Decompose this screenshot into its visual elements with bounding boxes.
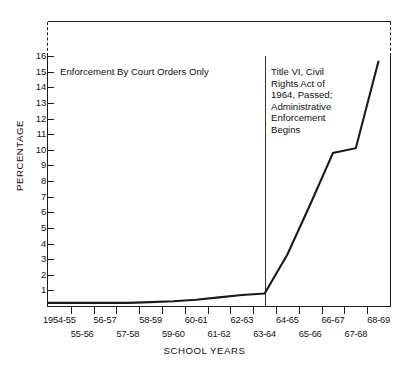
- x-tick-12: [322, 306, 323, 314]
- x-tick-label-57-58: 57-58: [104, 329, 152, 339]
- x-tick-label-63-64: 63-64: [241, 329, 289, 339]
- y-tick-6: [48, 212, 54, 213]
- y-tick-label-14: 14: [24, 82, 46, 92]
- x-tick-label-66-67: 66-67: [309, 315, 357, 325]
- y-tick-label-16: 16: [24, 51, 46, 61]
- x-tick-4: [139, 306, 140, 314]
- plot-frame-left-dashed: [47, 22, 48, 56]
- x-tick-label-67-68: 67-68: [332, 329, 380, 339]
- y-tick-label-5: 5: [24, 223, 46, 233]
- annotation-line-5: Begins: [271, 124, 357, 136]
- event-divider-title-vi: [265, 56, 266, 306]
- plot-frame-right-dashed: [390, 22, 391, 56]
- y-tick-label-3: 3: [24, 254, 46, 264]
- y-tick-5: [48, 228, 54, 229]
- x-tick-8: [230, 306, 231, 314]
- x-tick-label-68-69: 68-69: [355, 315, 403, 325]
- annotation-line-2: 1964, Passed;: [271, 89, 357, 101]
- x-tick-9: [253, 306, 254, 314]
- annotation-enforcement-court-orders: Enforcement By Court Orders Only: [60, 66, 209, 78]
- y-tick-9: [48, 165, 54, 166]
- y-tick-10: [48, 150, 54, 151]
- x-tick-label-64-65: 64-65: [263, 315, 311, 325]
- data-series-line: [0, 0, 409, 367]
- x-axis-line: [47, 306, 391, 307]
- y-tick-12: [48, 119, 54, 120]
- y-tick-13: [48, 103, 54, 104]
- annotation-title-vi-civil-rights: Title VI, CivilRights Act of1964, Passed…: [271, 66, 357, 136]
- annotation-line-4: Enforcement: [271, 112, 357, 124]
- y-tick-4: [48, 244, 54, 245]
- x-tick-label-61-62: 61-62: [195, 329, 243, 339]
- y-tick-15: [48, 72, 54, 73]
- y-tick-label-11: 11: [24, 129, 46, 139]
- y-tick-label-6: 6: [24, 207, 46, 217]
- plot-frame-top: [48, 21, 391, 22]
- x-tick-3: [116, 306, 117, 314]
- y-tick-16: [48, 56, 54, 57]
- y-tick-label-13: 13: [24, 98, 46, 108]
- y-tick-7: [48, 197, 54, 198]
- x-tick-label-65-66: 65-66: [286, 329, 334, 339]
- y-tick-3: [48, 259, 54, 260]
- x-tick-11: [299, 306, 300, 314]
- y-tick-label-9: 9: [24, 160, 46, 170]
- x-tick-2: [94, 306, 95, 314]
- annotation-line-3: Administrative: [271, 101, 357, 113]
- x-tick-6: [185, 306, 186, 314]
- x-tick-label-60-61: 60-61: [172, 315, 220, 325]
- plot-frame-right-solid: [390, 56, 391, 306]
- y-tick-label-15: 15: [24, 67, 46, 77]
- y-tick-14: [48, 87, 54, 88]
- y-tick-label-8: 8: [24, 176, 46, 186]
- x-tick-label-1954-55: 1954-55: [35, 315, 83, 325]
- x-axis-title: SCHOOL YEARS: [0, 345, 409, 356]
- annotation-line-0: Title VI, Civil: [271, 66, 357, 78]
- x-tick-13: [344, 306, 345, 314]
- x-tick-label-58-59: 58-59: [127, 315, 175, 325]
- x-tick-label-55-56: 55-56: [58, 329, 106, 339]
- x-tick-label-62-63: 62-63: [218, 315, 266, 325]
- annotation-line-1: Rights Act of: [271, 78, 357, 90]
- y-tick-label-1: 1: [24, 285, 46, 295]
- y-tick-2: [48, 275, 54, 276]
- y-axis-title: PERCENTAGE: [14, 104, 25, 208]
- y-tick-label-12: 12: [24, 114, 46, 124]
- y-tick-label-2: 2: [24, 270, 46, 280]
- x-tick-14: [367, 306, 368, 314]
- y-tick-label-7: 7: [24, 192, 46, 202]
- x-tick-10: [276, 306, 277, 314]
- x-tick-label-59-60: 59-60: [149, 329, 197, 339]
- y-tick-label-4: 4: [24, 239, 46, 249]
- y-tick-label-10: 10: [24, 145, 46, 155]
- x-tick-label-56-57: 56-57: [81, 315, 129, 325]
- x-tick-7: [208, 306, 209, 314]
- x-tick-1: [71, 306, 72, 314]
- y-tick-8: [48, 181, 54, 182]
- chart-figure: 12345678910111213141516 1954-5555-5656-5…: [0, 0, 409, 367]
- x-tick-5: [162, 306, 163, 314]
- y-tick-11: [48, 134, 54, 135]
- y-tick-1: [48, 290, 54, 291]
